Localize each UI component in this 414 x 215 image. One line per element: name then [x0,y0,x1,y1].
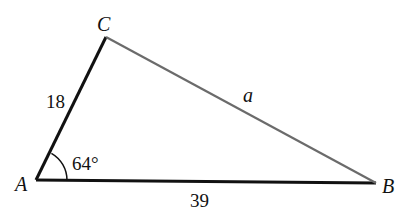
side-label-ab: 39 [190,190,209,211]
side-label-cb: a [243,84,253,106]
vertex-label-a: A [13,173,28,195]
side-label-ac: 18 [46,91,65,112]
vertex-label-b: B [382,175,394,197]
vertex-label-c: C [97,13,111,35]
angle-arc-a [51,153,67,180]
angle-label-a: 64° [72,153,99,174]
side-cb [106,37,376,183]
triangle-diagram: C A B 18 39 a 64° [0,0,414,215]
side-ab [36,180,376,183]
